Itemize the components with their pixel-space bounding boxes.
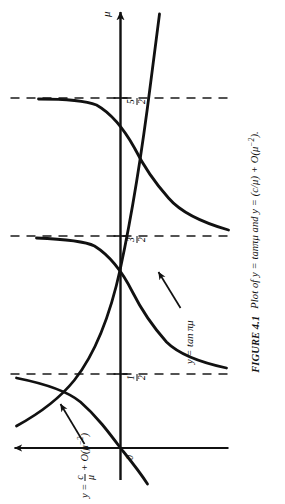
- x-axis-label: μ: [100, 11, 111, 17]
- rotated-figure-wrapper: μ 0 1 2 3 2 5 2: [0, 0, 285, 504]
- caption-text-part1: Plot of: [249, 277, 260, 309]
- curve-label-asym-close: ): [78, 433, 89, 437]
- fraction-denominator: 2: [136, 374, 147, 381]
- curve-label-asym-exponent: −2: [76, 436, 85, 445]
- fraction-three-halves: 3 2: [126, 236, 146, 243]
- tick-label-half: 1 2: [126, 374, 146, 381]
- fraction-denominator: 2: [136, 98, 147, 105]
- fraction-half: 1 2: [126, 374, 146, 381]
- caption-text-part3: ).: [249, 131, 260, 137]
- fraction-numerator: 1: [126, 374, 136, 381]
- tan-branch-1: [36, 238, 226, 368]
- curve-label-asym-eq: =: [78, 484, 89, 491]
- tick-label-five-halves: 5 2: [126, 98, 146, 105]
- curve-label-tan: y = tan πμ: [184, 320, 195, 364]
- curve-label-asym-plus: + O(μ: [78, 445, 89, 471]
- figure-number: FIGURE 4.1: [249, 316, 260, 373]
- fraction-five-halves: 5 2: [126, 98, 146, 105]
- fraction-numerator: c: [74, 474, 84, 481]
- curve-label-asym-y: y: [78, 493, 89, 498]
- fraction-denominator: 2: [136, 236, 147, 243]
- asymptotic-curve: [16, 14, 159, 426]
- fraction-c-over-mu: c μ: [74, 474, 95, 481]
- annotation-arrow-tan: [158, 272, 180, 308]
- tick-label-three-halves: 3 2: [126, 236, 146, 243]
- figure-page: μ 0 1 2 3 2 5 2: [0, 0, 285, 504]
- fraction-numerator: 3: [126, 236, 136, 243]
- fraction-numerator: 5: [126, 98, 136, 105]
- caption-text-part2: y = tanπμ and y = (c/μ) + O(μ: [249, 147, 260, 277]
- origin-label: 0: [124, 455, 134, 460]
- caption-exponent: −2: [246, 138, 255, 147]
- figure-caption: FIGURE 4.1Plot of y = tanπμ and y = (c/μ…: [246, 0, 260, 504]
- plot-area: μ 0 1 2 3 2 5 2: [0, 0, 240, 504]
- plot-graphic: [0, 0, 240, 504]
- curve-label-asymptotic: y = c μ + O(μ−2): [74, 433, 95, 498]
- fraction-denominator: μ: [84, 474, 95, 481]
